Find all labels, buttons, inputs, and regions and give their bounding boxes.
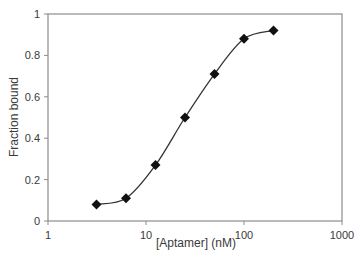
data-point-diamond: [150, 160, 160, 170]
data-point-diamond: [180, 113, 190, 123]
y-tick-label: 0: [34, 215, 40, 227]
x-tick-label: 10: [140, 229, 152, 241]
x-tick-label: 100: [235, 229, 253, 241]
y-axis-label: Fraction bound: [7, 77, 21, 157]
x-tick-label: 1000: [330, 229, 354, 241]
binding-curve-chart: 00.20.40.60.811101001000[Aptamer] (nM)Fr…: [0, 0, 362, 267]
x-axis-label: [Aptamer] (nM): [156, 236, 236, 250]
data-point-diamond: [269, 26, 279, 36]
x-tick-label: 1: [45, 229, 51, 241]
plot-area: 00.20.40.60.811101001000[Aptamer] (nM)Fr…: [0, 0, 362, 267]
plot-frame: [48, 14, 342, 221]
y-tick-label: 0.4: [25, 132, 40, 144]
y-tick-label: 0.6: [25, 91, 40, 103]
data-point-diamond: [209, 69, 219, 79]
y-tick-label: 0.8: [25, 49, 40, 61]
data-point-diamond: [91, 199, 101, 209]
y-tick-label: 1: [34, 8, 40, 20]
y-tick-label: 0.2: [25, 174, 40, 186]
